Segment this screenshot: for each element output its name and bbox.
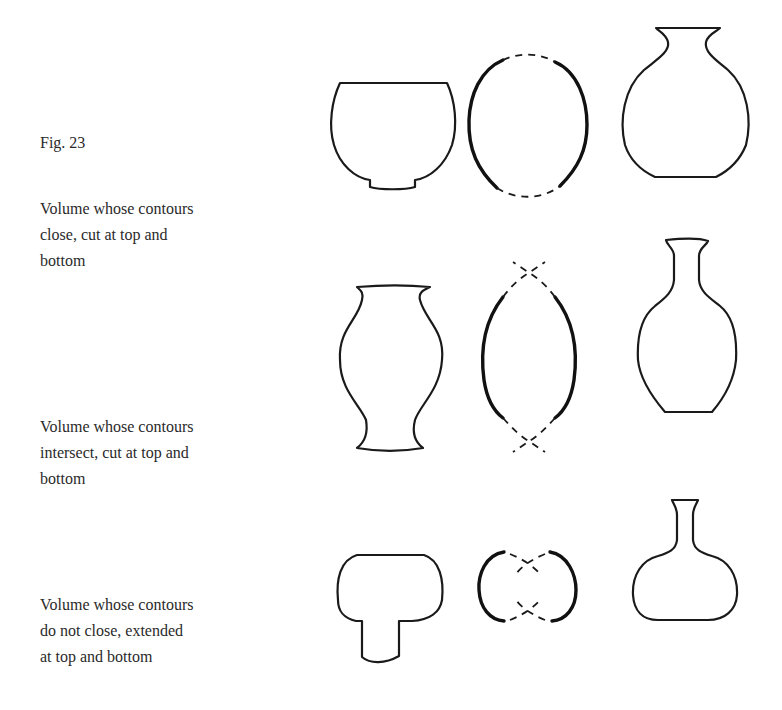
open-contour-diagram <box>479 552 576 621</box>
mushroom-vessel-drawing <box>338 555 443 662</box>
figure-drawings <box>0 0 782 710</box>
bowl-cut-vessel-drawing <box>331 83 455 189</box>
baluster-vase-drawing <box>340 286 442 452</box>
intersecting-contour-diagram <box>483 262 576 452</box>
ovoid-bottle-vase-drawing <box>638 239 736 412</box>
flask-bottle-drawing <box>633 500 737 620</box>
closed-contour-diagram <box>469 55 587 197</box>
globular-vase-drawing <box>623 28 749 177</box>
